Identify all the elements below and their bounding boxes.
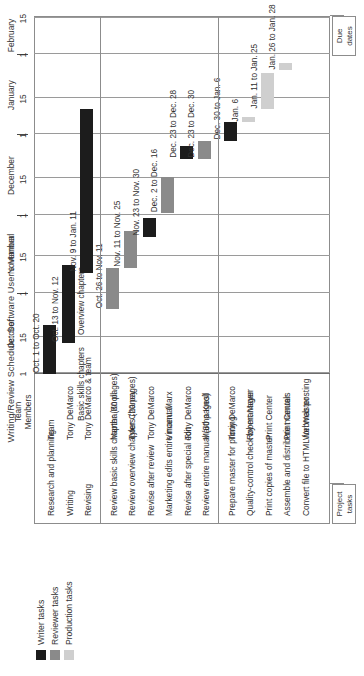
team-member-label: Print Center — [262, 395, 276, 440]
axis-tick-january-1: 1 — [19, 128, 28, 142]
gridline-vertical — [34, 53, 330, 54]
axis-month-november: November — [6, 216, 16, 294]
task-label: Revise after special edit — [181, 427, 195, 516]
project-tasks-connector — [330, 483, 344, 484]
team-members-header-line: Members — [24, 384, 34, 440]
task-label: Revise after review — [144, 445, 158, 516]
bar-date-label: Jan. 11 to Jan. 25 — [249, 44, 260, 108]
gantt-bar-reviewer[interactable] — [124, 231, 137, 267]
bar-date-label: Jan. 26 to Jan. 28 — [267, 4, 278, 69]
legend-label-production: Production tasks — [64, 581, 74, 645]
task-label: Revising — [81, 484, 95, 516]
bar-date-label: Oct. 1 to Oct. 20 — [31, 313, 42, 373]
axis-tick-february-15: 15 — [19, 12, 28, 26]
gantt-bar-production[interactable] — [279, 63, 292, 71]
gantt-bar-writer[interactable] — [143, 218, 156, 236]
group-separator — [100, 16, 101, 524]
team-member-label: Martha Knoll — [107, 393, 121, 440]
bar-date-label: Oct. 13 to Nov. 12 — [50, 276, 61, 341]
gridline-vertical — [34, 177, 330, 178]
axis-month-january: January — [6, 55, 16, 135]
legend-swatch-reviewer — [50, 650, 60, 660]
legend-swatch-writer — [36, 650, 46, 660]
bar-date-label: Jan. 6 — [230, 99, 241, 121]
team-member-label: Tony DeMarco — [225, 386, 239, 440]
gantt-bar-writer[interactable] — [62, 265, 75, 343]
team-member-label: Tyler Chaney — [125, 391, 139, 440]
bar-date-label: Oct. 26 to Nov. 11 — [94, 243, 105, 308]
team-member-label: Tony DeMarco — [144, 386, 158, 440]
due-dates-connector — [330, 15, 344, 16]
time-axis: October115November115December115January1… — [6, 16, 34, 374]
axis-tick-december-1: 1 — [19, 209, 28, 223]
group-separator — [218, 16, 219, 524]
gantt-chart: Writing/Review Schedule: Software User's… — [0, 0, 364, 676]
axis-month-february: February — [6, 16, 16, 55]
axis-tick-october-1: 1 — [19, 367, 28, 381]
team-member-label: Tony DeMarco — [63, 386, 77, 440]
legend-item-writer: Writer tasks — [36, 581, 46, 660]
legend-label-writer: Writer tasks — [36, 600, 46, 645]
team-member-label: Webmaster — [299, 397, 313, 440]
task-label: Writing — [63, 490, 77, 516]
axis-month-december: December — [6, 135, 16, 215]
axis-tick-october-15: 15 — [19, 331, 28, 345]
axis-tick-november-15: 15 — [19, 250, 28, 264]
axis-tick-december-15: 15 — [19, 172, 28, 186]
bar-date-label: Nov. 23 to Nov. 30 — [131, 169, 142, 236]
due-dates-callout: Due dates — [332, 16, 356, 56]
task-label: Research and planning — [44, 430, 58, 516]
gantt-bar-reviewer[interactable] — [161, 177, 174, 213]
bar-date-label: Nov. 9 to Jan. 11 — [68, 211, 79, 272]
team-member-label: Martha Knoll — [199, 393, 213, 440]
legend-label-reviewer: Reviewer tasks — [50, 587, 60, 645]
team-member-label: Tony DeMarco — [181, 386, 195, 440]
team-member-label: Robert Mayer — [243, 389, 257, 440]
bar-date-label: Nov. 11 to Nov. 25 — [112, 201, 123, 267]
legend-swatch-production — [64, 650, 74, 660]
gridline-vertical — [34, 17, 330, 18]
bar-date-label: Dec. 2 to Dec. 16 — [149, 149, 160, 212]
axis-tick-february-1: 1 — [19, 48, 28, 62]
team-member-label: Team — [44, 420, 58, 440]
column-header-team-members: TeamMembers — [14, 384, 33, 440]
axis-tick-november-1: 1 — [19, 287, 28, 301]
gridline-vertical — [34, 97, 330, 98]
axis-month-october: October — [6, 294, 16, 374]
team-member-label: Vincent Marx — [162, 391, 176, 440]
bar-sub-label: Overview chapters — [76, 267, 87, 335]
bar-date-label: Dec. 23 to Dec. 30 — [186, 90, 197, 158]
project-tasks-callout: Project tasks — [332, 484, 356, 524]
task-label: Print copies of master — [262, 435, 276, 516]
axis-tick-january-15: 15 — [19, 92, 28, 106]
gantt-bar-writer[interactable] — [224, 122, 237, 140]
team-member-label: Print Center — [280, 395, 294, 440]
gantt-bar-production[interactable] — [261, 73, 274, 109]
legend-item-production: Production tasks — [64, 581, 74, 660]
gridline-vertical — [34, 133, 330, 134]
gantt-bar-writer[interactable] — [80, 109, 93, 272]
rotated-page-wrapper: Writing/Review Schedule: Software User's… — [0, 0, 364, 676]
bar-sub-label: Basic skills chapters — [76, 347, 87, 421]
bar-date-label: Dec. 30 to Jan. 6 — [212, 78, 223, 140]
gridline-vertical — [34, 336, 330, 337]
legend-item-reviewer: Reviewer tasks — [50, 581, 60, 660]
gantt-bar-reviewer[interactable] — [106, 268, 119, 310]
legend: Writer tasksReviewer tasksProduction tas… — [36, 581, 78, 660]
gantt-bar-production[interactable] — [242, 117, 255, 122]
bar-date-label: Dec. 23 to Dec. 28 — [168, 90, 179, 158]
gantt-bar-reviewer[interactable] — [198, 141, 211, 159]
